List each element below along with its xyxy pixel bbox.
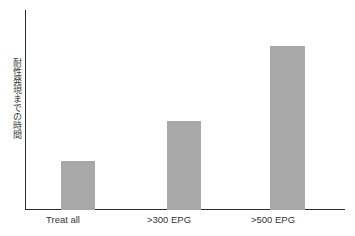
bar-treat-all	[61, 161, 95, 210]
x-tick-label-over-300-epg: >300 EPG	[139, 214, 199, 226]
bar-chart: 耐性発現までの時間 Treat all >300 EPG >500 EPG	[0, 0, 355, 236]
y-axis-title: 耐性発現までの時間	[8, 58, 22, 139]
plot-area	[25, 10, 345, 210]
x-tick-label-over-500-epg: >500 EPG	[242, 214, 304, 226]
x-tick-label-treat-all: Treat all	[33, 214, 93, 226]
bar-over-500-epg	[270, 46, 305, 210]
bar-over-300-epg	[167, 121, 201, 210]
